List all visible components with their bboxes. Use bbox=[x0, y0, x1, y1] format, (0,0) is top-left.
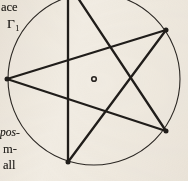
margin-text-line-pos: pos- bbox=[0, 127, 20, 139]
figure-group bbox=[5, 0, 181, 165]
pentagram-figure bbox=[0, 0, 188, 181]
chord-upper-right-to-bottom bbox=[68, 30, 166, 162]
chord-left-to-upper-right bbox=[7, 30, 166, 79]
gamma-symbol: Γ bbox=[7, 16, 15, 31]
vertex-bottom-marker bbox=[66, 160, 71, 165]
margin-text-line-all: all bbox=[3, 159, 16, 172]
chord-top-to-lower-right bbox=[68, 0, 166, 131]
vertex-upper-right-marker bbox=[164, 28, 169, 33]
vertex-lower-right-marker bbox=[164, 129, 169, 134]
circumscribed-circle bbox=[8, 0, 180, 165]
margin-text-line-ace: ace bbox=[1, 1, 18, 14]
margin-text-line-gamma: Γ1 bbox=[7, 17, 19, 33]
chord-lower-right-to-left bbox=[7, 79, 166, 131]
center-point bbox=[92, 77, 97, 82]
margin-text-line-m: m- bbox=[3, 143, 17, 156]
vertex-left-marker bbox=[5, 77, 10, 82]
scanned-page: ace Γ1 pos- m- all bbox=[0, 0, 188, 181]
gamma-subscript: 1 bbox=[15, 24, 20, 33]
